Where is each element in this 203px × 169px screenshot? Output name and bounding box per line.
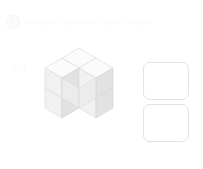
question-number-badge-icon: 1 — [6, 15, 20, 29]
answer-option-a[interactable] — [143, 62, 189, 100]
page-root: 1 Which of these is the same shape? AB — [0, 0, 203, 169]
answer-options — [143, 62, 189, 142]
question-title: Which of these is the same shape? — [25, 18, 153, 27]
answer-option-b[interactable] — [143, 104, 189, 142]
watermark-text: AB — [10, 62, 27, 74]
isometric-cube-svg — [38, 40, 133, 135]
isometric-cube-figure — [38, 40, 133, 135]
question-header: 1 Which of these is the same shape? — [0, 12, 203, 32]
